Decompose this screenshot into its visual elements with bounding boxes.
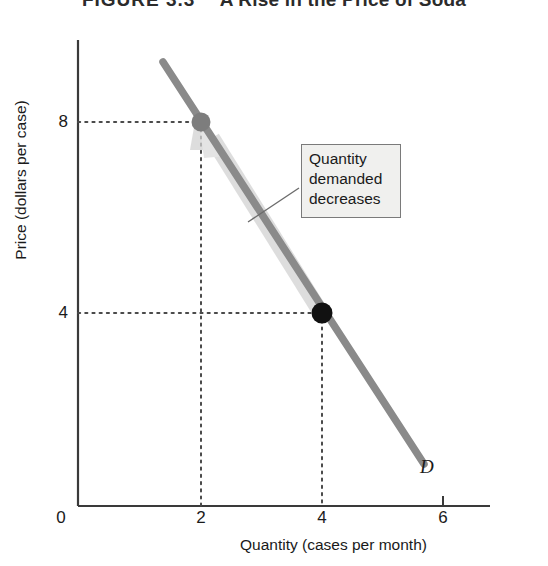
annotation-textbox: Quantity demanded decreases	[301, 144, 401, 218]
demand-curve-label: D	[420, 456, 434, 478]
data-point-initial	[192, 113, 211, 132]
data-point-final	[312, 303, 333, 324]
annotation-line-1: Quantity	[309, 149, 393, 169]
figure-container: FIGURE 3.3 A Rise in the Price of Soda P…	[0, 0, 548, 566]
movement-arrow	[190, 116, 318, 308]
plot-area	[0, 0, 548, 566]
annotation-line-2: demanded	[309, 169, 393, 189]
annotation-line-3: decreases	[309, 189, 393, 209]
